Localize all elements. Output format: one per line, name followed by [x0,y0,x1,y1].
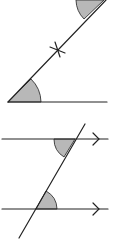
top-panel [8,0,107,102]
angle-diagram [0,0,118,248]
lower-alternate-angle [36,191,57,209]
transversal-line [8,0,106,102]
upper-alternate-angle [54,139,75,157]
bottom-transversal [19,124,85,238]
vertex-shaded-angle [8,79,41,102]
bottom-panel [2,124,108,238]
